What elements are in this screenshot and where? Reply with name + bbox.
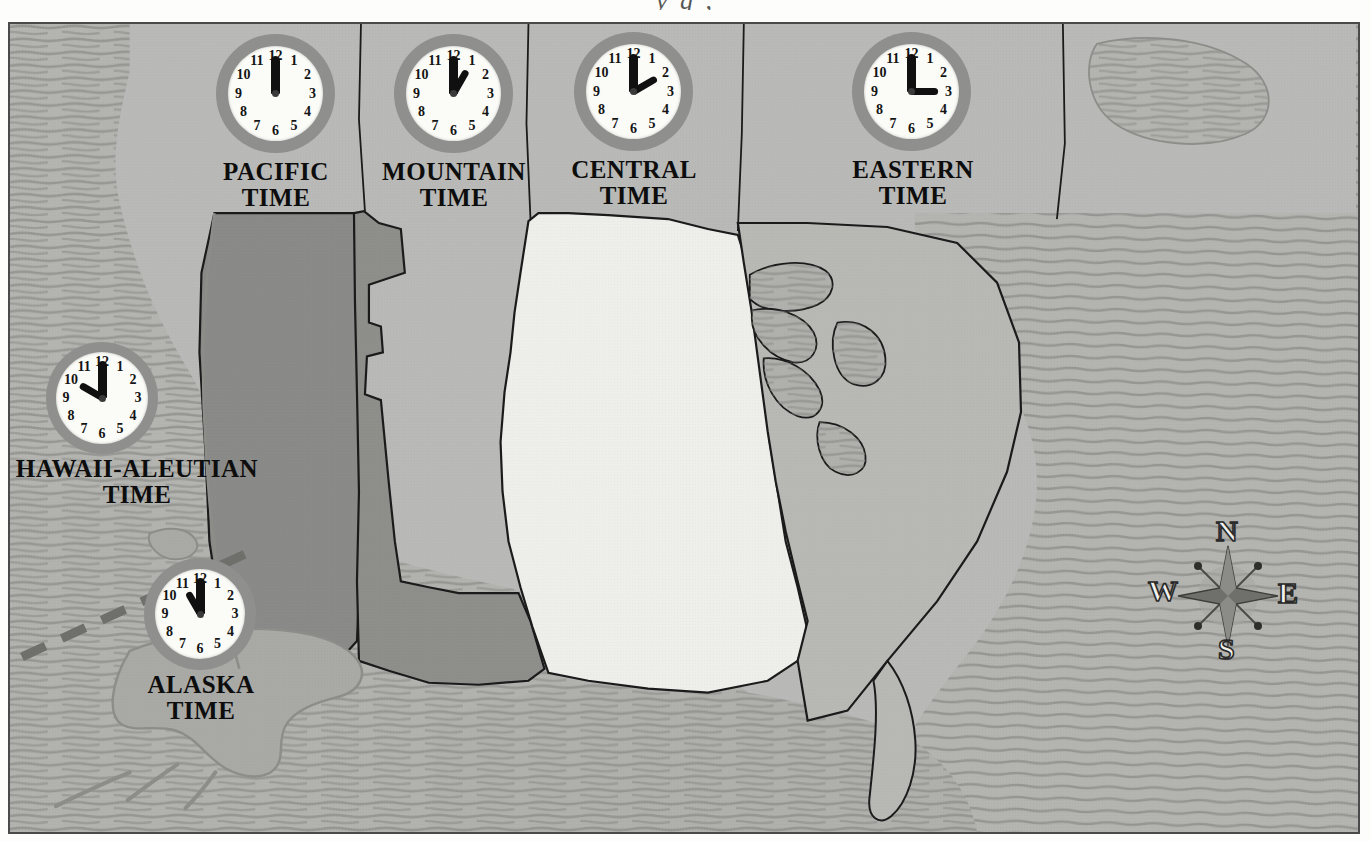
- clock-numeral-4: 4: [130, 409, 137, 423]
- clock-eastern: 121234567891011: [852, 32, 971, 151]
- compass-south-label: S: [1218, 632, 1235, 666]
- clock-numeral-9: 9: [593, 85, 600, 99]
- clock-numeral-4: 4: [940, 103, 947, 117]
- clock-numeral-6: 6: [908, 122, 915, 136]
- clock-center-pin: [908, 88, 915, 95]
- clock-numeral-10: 10: [414, 68, 428, 82]
- clock-numeral-6: 6: [450, 124, 457, 138]
- clock-numeral-9: 9: [871, 85, 878, 99]
- clock-numeral-6: 6: [197, 642, 204, 656]
- clock-numeral-9: 9: [161, 607, 168, 621]
- clock-numeral-11: 11: [886, 52, 899, 66]
- clock-numeral-5: 5: [116, 422, 123, 436]
- clock-numeral-9: 9: [63, 391, 70, 405]
- clock-numeral-5: 5: [291, 119, 298, 133]
- clock-alaska: 121234567891011: [144, 558, 256, 670]
- clock-numeral-2: 2: [940, 66, 947, 80]
- clock-hour-hand: [912, 88, 939, 95]
- compass-east-label: E: [1278, 576, 1298, 610]
- clock-numeral-3: 3: [667, 85, 674, 99]
- clock-numeral-9: 9: [235, 87, 242, 101]
- zone-label-central: CENTRAL TIME: [558, 157, 710, 209]
- clock-pacific: 121234567891011: [216, 34, 335, 153]
- clock-numeral-3: 3: [309, 87, 316, 101]
- clock-numeral-4: 4: [227, 625, 234, 639]
- clock-center-pin: [630, 88, 637, 95]
- clock-center-pin: [99, 395, 106, 402]
- zone-label-hawaii-aleutian: HAWAII-ALEUTIAN TIME: [12, 456, 262, 508]
- zone-label-eastern: EASTERN TIME: [834, 157, 992, 209]
- clock-numeral-10: 10: [163, 589, 177, 603]
- clock-numeral-10: 10: [872, 66, 886, 80]
- clock-numeral-8: 8: [240, 105, 247, 119]
- clock-numeral-4: 4: [482, 105, 489, 119]
- clock-numeral-3: 3: [232, 607, 239, 621]
- clock-numeral-10: 10: [594, 66, 608, 80]
- clock-numeral-7: 7: [179, 637, 186, 651]
- clock-numeral-5: 5: [649, 117, 656, 131]
- clock-numeral-7: 7: [611, 117, 618, 131]
- clock-numeral-1: 1: [649, 52, 656, 66]
- compass-west-label: W: [1148, 574, 1178, 608]
- clock-numeral-11: 11: [608, 52, 621, 66]
- compass-rose: N E S W: [1138, 518, 1318, 674]
- clock-numeral-8: 8: [67, 409, 74, 423]
- clock-numeral-3: 3: [487, 87, 494, 101]
- clock-numeral-1: 1: [927, 52, 934, 66]
- cut-off-caption-text: y g ,: [0, 0, 1371, 10]
- clock-numeral-1: 1: [116, 360, 123, 374]
- clock-numeral-5: 5: [469, 119, 476, 133]
- clock-numeral-11: 11: [428, 54, 441, 68]
- zone-label-pacific: PACIFIC TIME: [200, 159, 352, 211]
- clock-numeral-4: 4: [662, 103, 669, 117]
- clock-numeral-1: 1: [291, 54, 298, 68]
- clock-numeral-2: 2: [482, 68, 489, 82]
- clock-numeral-1: 1: [469, 54, 476, 68]
- clock-numeral-11: 11: [176, 577, 189, 591]
- clock-numeral-8: 8: [876, 103, 883, 117]
- clock-numeral-7: 7: [431, 119, 438, 133]
- clock-numeral-2: 2: [662, 66, 669, 80]
- clock-numeral-6: 6: [99, 427, 106, 441]
- clock-numeral-2: 2: [304, 68, 311, 82]
- clock-numeral-1: 1: [214, 577, 221, 591]
- clock-numeral-7: 7: [253, 119, 260, 133]
- clock-numeral-11: 11: [77, 360, 90, 374]
- clock-minute-hand: [907, 54, 916, 92]
- clock-numeral-3: 3: [945, 85, 952, 99]
- clock-numeral-4: 4: [304, 105, 311, 119]
- clock-numeral-7: 7: [81, 422, 88, 436]
- clock-numeral-2: 2: [130, 373, 137, 387]
- clock-numeral-5: 5: [927, 117, 934, 131]
- compass-north-label: N: [1216, 514, 1238, 548]
- clock-numeral-8: 8: [166, 625, 173, 639]
- clock-numeral-11: 11: [250, 54, 263, 68]
- map-frame: 121234567891011 PACIFIC TIME 12123456789…: [8, 22, 1360, 834]
- clock-numeral-5: 5: [214, 637, 221, 651]
- zone-label-alaska: ALASKA TIME: [126, 672, 276, 724]
- clock-numeral-9: 9: [413, 87, 420, 101]
- clock-numeral-10: 10: [64, 373, 78, 387]
- clock-center-pin: [450, 90, 457, 97]
- clock-mountain: 121234567891011: [394, 34, 513, 153]
- clock-numeral-7: 7: [889, 117, 896, 131]
- clock-numeral-8: 8: [418, 105, 425, 119]
- clock-numeral-3: 3: [134, 391, 141, 405]
- clock-central: 121234567891011: [574, 32, 693, 151]
- clock-center-pin: [197, 611, 204, 618]
- clock-numeral-8: 8: [598, 103, 605, 117]
- clock-numeral-6: 6: [630, 122, 637, 136]
- clock-numeral-10: 10: [236, 68, 250, 82]
- clock-numeral-2: 2: [227, 589, 234, 603]
- clock-numeral-6: 6: [272, 124, 279, 138]
- zone-label-mountain: MOUNTAIN TIME: [368, 159, 540, 211]
- clock-hawaii-aleutian: 121234567891011: [46, 342, 158, 454]
- clock-center-pin: [272, 90, 279, 97]
- time-zone-map-page: y g ,: [0, 0, 1371, 841]
